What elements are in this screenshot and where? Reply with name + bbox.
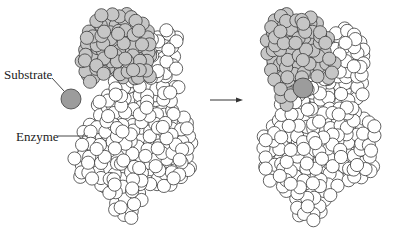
cap-atom [289,36,302,49]
cap-atom [281,71,294,84]
enzyme-atom [284,143,297,156]
enzyme-atom [259,162,272,175]
cap-atom [325,66,338,79]
enzyme-cap-domain [75,8,157,89]
cap-atom [323,52,336,65]
enzyme-atom [284,177,297,190]
enzyme-atom [114,201,127,214]
enzyme-body [68,72,198,224]
enzyme-atom [108,142,121,155]
panel-before-binding [61,8,198,225]
cap-atom [297,17,310,30]
enzyme-atom [133,161,146,174]
enzyme-atom [82,156,95,169]
enzyme-atom [356,88,369,101]
enzyme-atom [332,108,345,121]
cap-atom [311,70,324,83]
enzyme-substrate-diagram [0,0,393,238]
cap-atom [80,31,93,44]
enzyme-atom [180,122,193,135]
free-substrate [61,89,81,109]
enzyme-atom [125,211,138,224]
enzyme-atom [259,134,272,147]
cap-atom [95,9,108,22]
enzyme-atom [164,86,177,99]
substrate-label: Substrate [4,68,52,81]
enzyme-atom [127,198,140,211]
cap-atom [97,67,110,80]
enzyme-atom [309,137,322,150]
enzyme-atom [313,115,326,128]
substrate-molecule [293,78,313,98]
enzyme-atom [85,172,98,185]
cap-atom [105,45,118,58]
enzyme-atom [126,182,139,195]
enzyme-atom [109,88,122,101]
bound-substrate [293,78,313,98]
arrow-head-icon [236,98,243,103]
enzyme-atom [347,60,360,73]
enzyme-atom [156,120,169,133]
enzyme-atom [76,138,89,151]
enzyme-label: Enzyme [16,130,59,143]
enzyme-atom [280,155,293,168]
enzyme-atom [307,214,320,227]
enzyme-atom [297,142,310,155]
enzyme-atom [334,150,347,163]
cap-atom [319,36,332,49]
enzyme-atom [162,43,175,56]
cap-atom [296,54,309,67]
enzyme-atom [273,169,286,182]
enzyme-atom [324,189,337,202]
enzyme-atom [301,200,314,213]
enzyme-atom [116,125,129,138]
cap-atom [83,75,96,88]
reaction-arrow-icon [210,98,243,103]
enzyme-atom [170,62,183,75]
enzyme-atom [68,152,81,165]
enzyme-atom [102,110,115,123]
cap-atom [112,27,125,40]
enzyme-atom [173,153,186,166]
cap-atom [98,25,111,38]
enzyme-atom [117,154,130,167]
enzyme-atom [151,142,164,155]
enzyme-atom [90,142,103,155]
enzyme-atom [167,172,180,185]
cap-atom [119,52,132,65]
enzyme-atom [300,157,313,170]
enzyme-atom [368,120,381,133]
substrate-molecule [61,89,81,109]
enzyme-atom [275,131,288,144]
enzyme-atom [160,24,173,37]
enzyme-atom [350,158,363,171]
cap-atom [127,64,140,77]
enzyme-atom [282,119,295,132]
enzyme-atom [306,177,319,190]
cap-atom [132,24,145,37]
enzyme-atom [315,152,328,165]
enzyme-atom [93,95,106,108]
substrate-leader-line [52,78,64,91]
enzyme-atom [139,149,152,162]
enzyme-atom [301,103,314,116]
enzyme-atom [108,178,121,191]
enzyme-atom [364,144,377,157]
cap-atom [274,25,287,38]
panel-after-binding [257,8,381,227]
enzyme-atom [335,87,348,100]
cap-atom [277,37,290,50]
enzyme-atom [149,160,162,173]
enzyme-atom [140,101,153,114]
